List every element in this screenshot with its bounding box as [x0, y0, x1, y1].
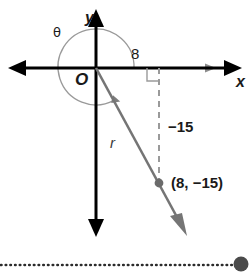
coordinate-diagram — [0, 0, 252, 276]
radius-label: r — [110, 135, 115, 150]
x-leg-label: 8 — [131, 46, 139, 61]
point-marker — [155, 179, 164, 188]
figure-background — [0, 0, 252, 276]
point-coordinate-label: (8, −15) — [171, 175, 223, 190]
origin-label: O — [75, 71, 88, 88]
y-leg-label: −15 — [168, 119, 193, 134]
y-axis-label: y — [85, 10, 94, 26]
x-axis-label: x — [236, 74, 245, 90]
theta-label: θ — [53, 26, 61, 39]
dotted-rule-end-dot — [234, 257, 249, 272]
